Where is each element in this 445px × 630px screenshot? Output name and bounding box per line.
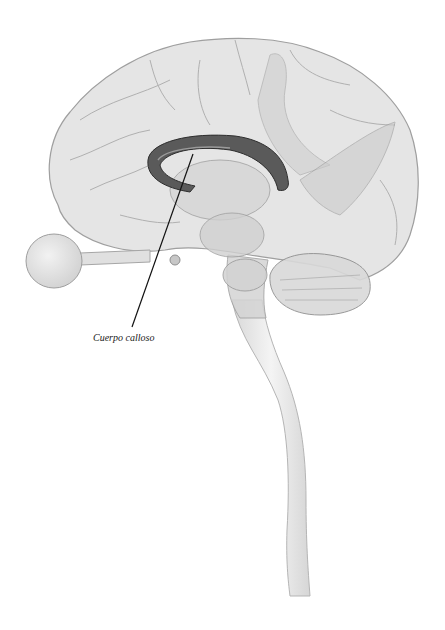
pituitary xyxy=(170,255,180,265)
corpus-callosum-label: Cuerpo calloso xyxy=(93,332,154,343)
eyeball xyxy=(26,234,82,288)
pons xyxy=(223,259,267,291)
brain-drawing xyxy=(0,0,445,630)
midbrain xyxy=(200,213,264,257)
spinal-cord xyxy=(232,300,310,596)
optic-nerve xyxy=(80,250,150,265)
brain-illustration: Cuerpo calloso xyxy=(0,0,445,630)
cerebellum xyxy=(270,254,370,315)
